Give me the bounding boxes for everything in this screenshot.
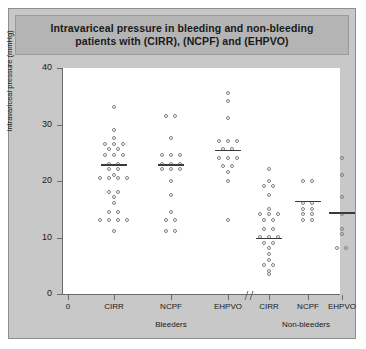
data-point (121, 153, 125, 157)
x-tick-mark (269, 295, 270, 300)
data-point (267, 167, 271, 171)
mean-line (158, 164, 184, 166)
data-point (340, 195, 344, 199)
data-point (112, 136, 116, 140)
data-point (267, 212, 271, 216)
data-point (267, 246, 271, 250)
data-point (116, 176, 120, 180)
y-tick-label: 10 (26, 232, 52, 242)
data-point (103, 153, 107, 157)
data-point (226, 170, 230, 174)
data-point (340, 173, 344, 177)
plot-area (62, 68, 340, 295)
data-point (276, 212, 280, 216)
y-tick-mark (57, 294, 62, 295)
data-point (178, 167, 182, 171)
data-point (226, 218, 230, 222)
data-point (160, 153, 164, 157)
x-tick-label: CIRR (89, 302, 139, 311)
y-tick-label: 20 (26, 175, 52, 185)
data-point (301, 207, 305, 211)
data-point (112, 173, 116, 177)
data-point (107, 210, 111, 214)
y-tick-mark (57, 68, 62, 69)
data-point (340, 232, 344, 236)
data-point (112, 105, 116, 109)
data-point (267, 179, 271, 183)
data-point (258, 212, 262, 216)
mean-line (215, 150, 241, 152)
data-point (107, 190, 111, 194)
y-tick-label: 0 (26, 288, 52, 298)
data-point (226, 99, 230, 103)
mean-line (329, 212, 355, 214)
data-point (169, 153, 173, 157)
data-point (178, 153, 182, 157)
data-point (121, 142, 125, 146)
mean-line (101, 164, 127, 166)
mean-line (256, 238, 282, 240)
data-point (344, 246, 348, 250)
data-point (310, 207, 314, 211)
data-point (267, 272, 271, 276)
data-point (116, 210, 120, 214)
x-tick-mark (228, 295, 229, 300)
data-point (226, 91, 230, 95)
data-point (169, 167, 173, 171)
data-point (116, 190, 120, 194)
data-point (235, 139, 239, 143)
data-point (112, 201, 116, 205)
data-point (267, 193, 271, 197)
page-title: Intravariceal pressure in bleeding and n… (43, 22, 322, 48)
data-point (217, 156, 221, 160)
data-point (262, 241, 266, 245)
x-tick-mark (114, 295, 115, 300)
data-point (340, 227, 344, 231)
x-tick-mark (68, 295, 69, 300)
data-point (160, 167, 164, 171)
y-tick-mark (57, 125, 62, 126)
x-group-label: Non-bleeders (251, 320, 361, 329)
data-point (226, 179, 230, 183)
figure-panel: Intravariceal pressure in bleeding and n… (8, 8, 356, 339)
data-point (107, 176, 111, 180)
chart-title-bar: Intravariceal pressure in bleeding and n… (15, 15, 349, 55)
data-point (271, 227, 275, 231)
data-point (169, 210, 173, 214)
x-group-label: Bleeders (116, 320, 226, 329)
x-tick-mark (342, 295, 343, 300)
data-point (112, 229, 116, 233)
data-point (98, 176, 102, 180)
data-point (112, 153, 116, 157)
x-tick-label: 0 (43, 302, 93, 311)
data-point (112, 128, 116, 132)
data-point (169, 179, 173, 183)
data-point (226, 139, 230, 143)
data-point (267, 252, 271, 256)
chart-body: Intravariceal pressure (mmHg) 4030201000… (15, 57, 349, 334)
data-point (103, 142, 107, 146)
data-point (340, 156, 344, 160)
y-tick-label: 30 (26, 119, 52, 129)
data-point (169, 136, 173, 140)
data-point (267, 207, 271, 211)
data-point (169, 193, 173, 197)
mean-line (295, 201, 321, 203)
y-tick-label: 40 (26, 62, 52, 72)
data-point (112, 142, 116, 146)
x-tick-mark (171, 295, 172, 300)
data-point (217, 139, 221, 143)
y-tick-mark (57, 238, 62, 239)
data-point (164, 114, 168, 118)
x-tick-label: NCPF (146, 302, 196, 311)
x-tick-label: EHPVO (317, 302, 366, 311)
data-point (226, 116, 230, 120)
data-point (301, 179, 305, 183)
data-point (267, 258, 271, 262)
data-point (173, 114, 177, 118)
data-point (235, 156, 239, 160)
data-point (226, 156, 230, 160)
data-point (262, 227, 266, 231)
y-tick-mark (57, 181, 62, 182)
y-axis-title: Intravariceal pressure (mmHg) (5, 1, 14, 161)
